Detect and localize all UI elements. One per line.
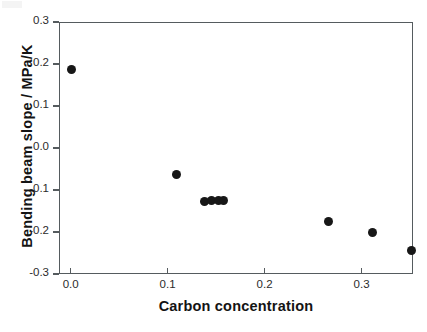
data-point xyxy=(172,170,181,179)
scatter-plot-area xyxy=(59,22,413,274)
x-axis-tick xyxy=(361,268,362,274)
y-axis-tick xyxy=(53,189,59,190)
x-axis-tick-label: 0.3 xyxy=(340,278,384,290)
x-axis-tick xyxy=(70,268,71,274)
x-axis-tick xyxy=(167,268,168,274)
x-axis-title: Carbon concentration xyxy=(59,298,413,314)
y-axis-tick-label: 0.3 xyxy=(4,14,49,26)
data-point xyxy=(324,217,333,226)
chart-figure: Carbon concentration Bending beam slope … xyxy=(0,0,427,332)
x-axis-tick-label: 0.1 xyxy=(146,278,190,290)
y-axis-tick xyxy=(53,231,59,232)
y-axis-tick-label: 0.0 xyxy=(4,140,49,152)
y-axis-tick xyxy=(53,21,59,22)
y-axis-tick xyxy=(53,63,59,64)
y-axis-tick xyxy=(53,147,59,148)
data-point xyxy=(219,196,228,205)
data-point xyxy=(407,246,416,255)
y-axis-tick xyxy=(53,273,59,274)
y-axis-tick xyxy=(53,105,59,106)
data-point xyxy=(67,65,76,74)
scan-artifact xyxy=(2,1,22,8)
x-axis-tick xyxy=(264,268,265,274)
x-axis-tick-label: 0.2 xyxy=(243,278,287,290)
y-axis-tick-label: 0.1 xyxy=(4,98,49,110)
y-axis-tick-label: -0.1 xyxy=(4,182,49,194)
x-axis-tick-label: 0.0 xyxy=(49,278,93,290)
y-axis-tick-label: -0.2 xyxy=(4,224,49,236)
y-axis-tick-label: -0.3 xyxy=(4,266,49,278)
y-axis-tick-label: 0.2 xyxy=(4,56,49,68)
data-point xyxy=(368,228,377,237)
